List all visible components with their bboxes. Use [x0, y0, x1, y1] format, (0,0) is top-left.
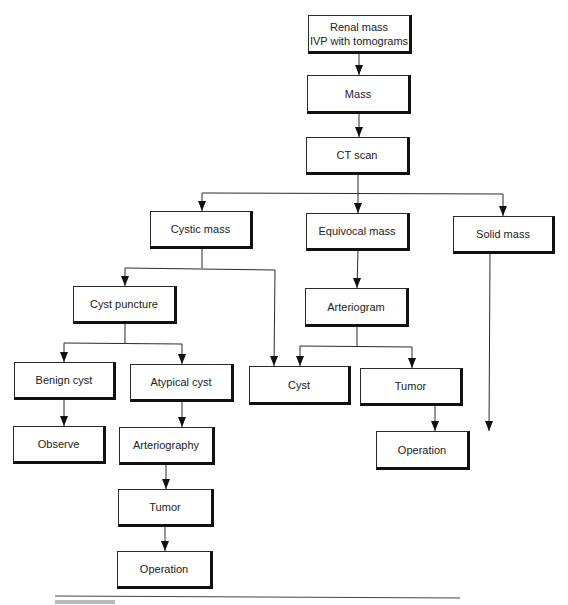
node-operation-bottom: Operation	[117, 551, 213, 589]
arrowhead-icon	[499, 206, 507, 216]
arrowhead-icon	[296, 356, 304, 366]
node-operation-right: Operation	[376, 431, 470, 470]
node-ct-scan: CT scan	[306, 137, 410, 175]
arrowhead-icon	[355, 65, 363, 75]
arrowhead-icon	[198, 201, 206, 211]
node-cyst-puncture: Cyst puncture	[73, 286, 177, 324]
node-cyst: Cyst	[249, 366, 351, 405]
arrowhead-icon	[178, 354, 186, 364]
node-arteriogram: Arteriogram	[305, 288, 409, 327]
connector-line	[64, 343, 182, 344]
flowchart-canvas: Renal mass IVP with tomograms Mass CT sc…	[0, 0, 568, 605]
arrowhead-icon	[353, 278, 361, 288]
arrowhead-icon	[270, 356, 278, 366]
arrowhead-icon	[121, 276, 129, 286]
connector-line	[125, 268, 275, 270]
arrowhead-icon	[162, 479, 170, 489]
arrowhead-icon	[354, 203, 362, 213]
node-atypical-cyst: Atypical cyst	[130, 364, 234, 402]
arrowhead-icon	[60, 352, 68, 362]
arrowhead-icon	[431, 421, 439, 431]
arrowhead-icon	[355, 127, 363, 137]
caption-divider	[55, 596, 460, 598]
arrowhead-icon	[485, 421, 493, 431]
arrowhead-icon	[60, 416, 68, 426]
node-renal-mass: Renal mass IVP with tomograms	[308, 15, 412, 54]
node-tumor-right: Tumor	[360, 368, 463, 406]
arrowhead-icon	[408, 358, 416, 368]
connector-line	[489, 254, 490, 431]
node-arteriography: Arteriography	[119, 427, 215, 465]
arrowhead-icon	[178, 417, 186, 427]
arrowhead-icon	[161, 541, 169, 551]
caption-cut-off	[55, 600, 115, 604]
node-mass: Mass	[307, 75, 411, 114]
node-solid-mass: Solid mass	[453, 216, 555, 254]
connector-line	[202, 193, 503, 194]
node-benign-cyst: Benign cyst	[14, 362, 116, 400]
node-tumor-bottom: Tumor	[118, 489, 214, 527]
connector-line	[274, 270, 275, 366]
node-cystic-mass: Cystic mass	[150, 211, 253, 249]
connector-line	[300, 346, 412, 347]
node-equivocal-mass: Equivocal mass	[306, 213, 410, 251]
node-observe: Observe	[13, 426, 106, 464]
